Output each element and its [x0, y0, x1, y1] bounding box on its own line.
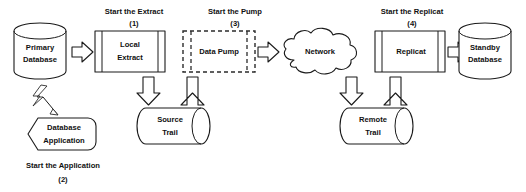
connector-network-to-remote	[340, 77, 363, 105]
node-network: Network	[284, 28, 356, 74]
network-label: Network	[305, 47, 336, 56]
step-application-number: (2)	[58, 175, 68, 184]
primary-database-label-line2: Database	[23, 55, 57, 64]
node-database-application: Database Application	[28, 118, 96, 150]
step-label-extract: Start the Extract (1)	[105, 7, 164, 28]
step-extract-title: Start the Extract	[105, 7, 164, 16]
local-extract-label-line2: Extract	[117, 53, 143, 62]
step-label-pump: Start the Pump (3)	[208, 7, 262, 28]
node-replicat: Replicat	[375, 31, 445, 72]
step-replicat-number: (4)	[407, 19, 417, 28]
node-remote-trail: Remote Trail	[340, 108, 413, 144]
diagram-canvas: Start the Extract (1) Start the Pump (3)…	[0, 0, 526, 192]
node-data-pump: Data Pump	[183, 31, 255, 72]
node-standby-database: Standby Database	[459, 23, 511, 79]
node-local-extract: Local Extract	[95, 31, 165, 72]
connector-extract-to-source	[137, 77, 160, 105]
step-label-replicat: Start the Replicat (4)	[381, 7, 444, 28]
step-replicat-title: Start the Replicat	[381, 7, 444, 16]
node-source-trail: Source Trail	[137, 108, 210, 144]
step-extract-number: (1)	[129, 19, 139, 28]
primary-database-label-line1: Primary	[26, 43, 55, 52]
remote-trail-label-line1: Remote	[359, 115, 387, 124]
standby-database-label-line2: Database	[468, 55, 502, 64]
data-pump-label: Data Pump	[199, 47, 239, 56]
step-pump-number: (3)	[230, 19, 240, 28]
replicat-label: Replicat	[396, 47, 426, 56]
source-trail-label-line1: Source	[157, 115, 183, 124]
remote-trail-label-line2: Trail	[365, 128, 381, 137]
node-primary-database: Primary Database	[14, 23, 66, 79]
connector-pump-to-network	[258, 42, 279, 62]
step-application-title: Start the Application	[26, 161, 100, 170]
connector-primary-to-extract	[72, 42, 93, 62]
step-label-application: Start the Application (2)	[26, 161, 100, 184]
local-extract-label-line1: Local	[120, 40, 140, 49]
database-application-label-line1: Database	[47, 123, 81, 132]
connector-remote-to-replicat	[384, 77, 407, 105]
connector-application-to-primary	[33, 85, 58, 115]
step-pump-title: Start the Pump	[208, 7, 262, 16]
source-trail-label-line2: Trail	[162, 128, 178, 137]
standby-database-label-line1: Standby	[470, 43, 501, 52]
connector-source-to-pump	[181, 77, 204, 105]
database-application-label-line2: Application	[43, 136, 85, 145]
